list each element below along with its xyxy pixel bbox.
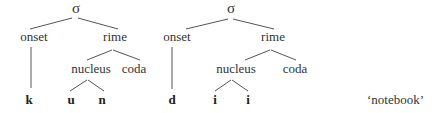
syllable-node-1: σ	[72, 1, 80, 16]
nucleus-node-1: nucleus	[71, 62, 111, 76]
branch-nucleus-seg2-1	[88, 80, 104, 91]
branch-sigma-onset-2	[186, 19, 228, 29]
branch-nucleus-seg2-2	[232, 80, 248, 91]
nucleus-segment-2a: i	[213, 93, 217, 107]
branch-rime-coda-1	[113, 50, 140, 60]
nucleus-segment-2b: i	[246, 93, 250, 107]
branch-nucleus-seg1-2	[215, 80, 231, 91]
onset-node-1: onset	[20, 30, 47, 44]
branch-sigma-onset-1	[30, 18, 72, 29]
gloss-text: ‘notebook’	[367, 93, 424, 107]
syllable-diagram: σ onset rime nucleus coda k u n σ onset …	[0, 0, 436, 113]
rime-node-2: rime	[261, 30, 285, 44]
branch-sigma-rime-2	[233, 19, 274, 29]
branch-rime-coda-2	[271, 50, 296, 60]
coda-node-1: coda	[122, 62, 147, 76]
branch-nucleus-seg1-1	[70, 80, 87, 91]
coda-node-2: coda	[283, 62, 308, 76]
nucleus-segment-1a: u	[67, 93, 74, 107]
onset-segment-1: k	[25, 93, 32, 107]
nucleus-node-2: nucleus	[216, 62, 256, 76]
branch-sigma-rime-1	[78, 18, 118, 29]
branch-rime-nucleus-2	[245, 50, 270, 60]
syllable-node-2: σ	[227, 1, 235, 16]
onset-node-2: onset	[163, 30, 190, 44]
rime-node-1: rime	[103, 30, 127, 44]
onset-segment-2: d	[168, 93, 175, 107]
branch-rime-nucleus-1	[87, 50, 112, 60]
nucleus-segment-1b: n	[98, 93, 105, 107]
